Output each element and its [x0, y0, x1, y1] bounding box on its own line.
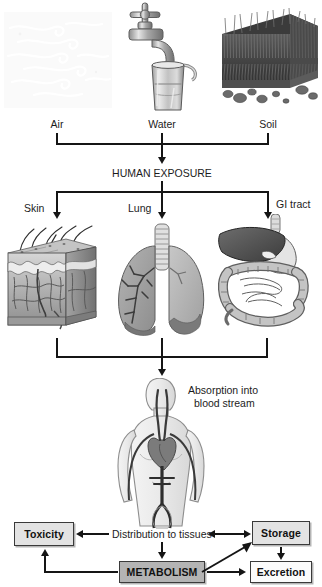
arrowhead-to-body [158, 369, 166, 376]
fate-node-excretion-label: Excretion [257, 566, 306, 578]
connector-exposure-drop [161, 143, 163, 158]
fate-node-toxicity[interactable]: Toxicity [14, 522, 74, 546]
connector-skin-drop [56, 191, 58, 213]
connector-distribution-storage [215, 533, 247, 535]
arrowhead-to-distribution [208, 530, 215, 538]
arrowhead-to-lung [158, 212, 166, 219]
arrowhead-to-storage [244, 530, 251, 538]
absorption-label-line2: blood stream [194, 397, 255, 410]
soil-grass-block-image [214, 6, 320, 108]
connector-lung-out [161, 338, 163, 358]
water-faucet-glass-image [122, 2, 214, 114]
route-label-lung: Lung [128, 202, 151, 214]
diagram-canvas: Air Water Soil HUMAN EXPOSURE Skin Lung … [0, 0, 322, 587]
arrowhead-to-human-exposure [158, 157, 166, 164]
arrowhead-storage-to-excretion [277, 553, 285, 560]
gi-tract-image [218, 214, 318, 338]
arrowhead-to-excretion [239, 568, 246, 576]
connector-gi-drop [267, 191, 269, 213]
fate-node-metabolism[interactable]: METABOLISM [119, 561, 205, 583]
connector-gi-out [266, 338, 268, 358]
connector-metabolism-to-excretion [207, 571, 240, 573]
connector-absorption-drop [161, 356, 163, 370]
source-label-air: Air [36, 118, 78, 130]
source-label-soil: Soil [246, 118, 290, 130]
arrowhead-to-skin [53, 212, 61, 219]
connector-metabolism-to-toxicity-v [44, 556, 46, 573]
fate-node-toxicity-label: Toxicity [24, 528, 64, 540]
fate-node-storage-label: Storage [261, 527, 301, 539]
arrowhead-to-metabolism [158, 552, 166, 559]
route-label-skin: Skin [24, 202, 44, 214]
absorption-label-line1: Absorption into [188, 384, 258, 397]
connector-metabolism-to-toxicity-h [44, 571, 118, 573]
human-exposure-node: HUMAN EXPOSURE [92, 167, 232, 179]
air-wind-swirls-image [4, 12, 112, 108]
fate-node-distribution: Distribution to tissues [112, 528, 212, 540]
source-label-water: Water [135, 118, 189, 130]
fate-node-storage[interactable]: Storage [252, 521, 310, 545]
lungs-image [112, 222, 212, 340]
connector-lung-drop [161, 191, 163, 213]
connector-skin-out [56, 338, 58, 358]
connector-distribution-to-toxicity [83, 533, 109, 535]
fate-node-metabolism-label: METABOLISM [127, 566, 198, 578]
route-label-gi-tract: GI tract [276, 198, 310, 210]
arrowhead-metabolism-to-toxicity [41, 549, 49, 556]
arrowhead-to-toxicity [76, 530, 83, 538]
skin-cross-section-image [4, 225, 100, 337]
